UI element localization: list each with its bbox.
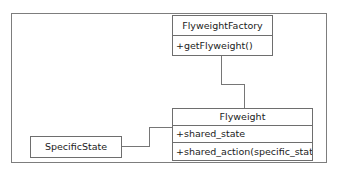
connector-specificstate-to-flyweight-segment-3 (149, 127, 173, 128)
connector-factory-to-flyweight-segment-2 (221, 84, 245, 85)
class-operation-shared-action: +shared_action(specific_state) (173, 143, 312, 160)
class-box-flyweight-factory[interactable]: FlyweightFactory +getFlyweight() (172, 15, 273, 56)
connector-factory-to-flyweight-segment-3 (244, 84, 245, 109)
class-box-specific-state[interactable]: SpecificState (30, 136, 122, 158)
class-operation-get-flyweight: +getFlyweight() (173, 36, 272, 55)
connector-specificstate-to-flyweight-segment-2 (149, 127, 150, 147)
class-attribute-shared-state: +shared_state (173, 126, 312, 143)
class-name-flyweight-factory: FlyweightFactory (173, 16, 272, 36)
connector-factory-to-flyweight-segment-1 (221, 56, 222, 85)
connector-specificstate-to-flyweight-segment-1 (122, 146, 150, 147)
class-name-flyweight: Flyweight (173, 109, 312, 126)
class-box-flyweight[interactable]: Flyweight +shared_state +shared_action(s… (172, 108, 313, 161)
diagram-canvas: FlyweightFactory +getFlyweight() Flyweig… (0, 0, 339, 176)
class-name-specific-state: SpecificState (31, 137, 121, 157)
